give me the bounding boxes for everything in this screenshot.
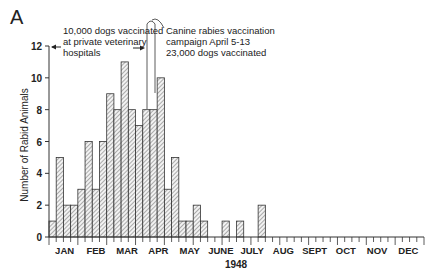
y-axis-label: Number of Rabid Animals [19,88,30,201]
bar [121,62,128,237]
bar [136,126,143,237]
bar [179,221,186,237]
y-tick-label: 6 [36,137,42,148]
bar [85,142,92,238]
panel-label: A [10,6,24,28]
bar [237,221,244,237]
bar [164,189,171,237]
annotation-private-vaccination: hospitals [63,47,101,58]
x-axis-label: 1948 [225,259,248,270]
month-label: SEPT [302,245,327,256]
bar [71,205,78,237]
bars [49,62,265,237]
bar [150,110,157,237]
month-label: NOV [367,245,388,256]
y-tick-label: 12 [31,41,43,52]
month-label: AUG [273,245,294,256]
month-label: DEC [398,245,418,256]
annotation-private-vaccination: 10,000 dogs vaccinated [63,25,163,36]
bar [56,157,63,237]
bar [99,142,106,238]
bar [193,205,200,237]
month-label: MAR [116,245,138,256]
month-label: OCT [336,245,356,256]
month-label: JAN [55,245,74,256]
month-label: FEB [86,245,105,256]
y-tick-label: 4 [36,168,42,179]
y-tick-label: 10 [31,73,43,84]
y-tick-label: 8 [36,105,42,116]
bar [186,221,193,237]
bar [258,205,265,237]
bar [222,221,229,237]
annotation-campaign: campaign April 5-13 [166,36,250,47]
bar [78,189,85,237]
bar [128,110,135,237]
bar [63,205,70,237]
bar [49,221,56,237]
bar [200,221,207,237]
y-tick-label: 2 [36,200,42,211]
annotation-campaign: Canine rabies vaccination [166,25,275,36]
bar [107,94,114,237]
month-label: JULY [240,245,264,256]
annotation-campaign: 23,000 dogs vaccinated [166,47,266,58]
bar [143,110,150,237]
month-label: JUNE [208,245,233,256]
bar [92,189,99,237]
bar [172,157,179,237]
arrow-left-icon [51,45,56,50]
bar [114,110,121,237]
y-tick-label: 0 [36,232,42,243]
bar [157,78,164,237]
annotation-private-vaccination: at private veterinary [63,36,147,47]
month-label: APR [148,245,168,256]
month-label: MAY [180,245,201,256]
weekly-rabid-animals-bar-chart: A 024681012JANFEBMARAPRMAYJUNEJULYAUGSEP… [0,0,444,272]
